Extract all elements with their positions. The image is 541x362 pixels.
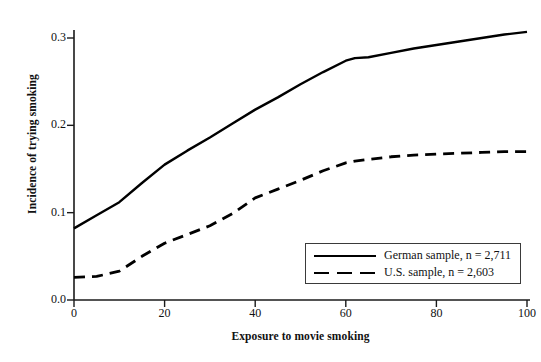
y-tick-marks bbox=[67, 38, 74, 300]
x-axis-title: Exposure to movie smoking bbox=[74, 330, 527, 342]
y-tick-label: 0.1 bbox=[30, 205, 66, 220]
x-tick-label: 0 bbox=[54, 306, 94, 321]
legend-label-german: German sample, n = 2,711 bbox=[384, 248, 511, 263]
legend-item-german: German sample, n = 2,711 bbox=[314, 247, 511, 264]
legend-solid-line-icon bbox=[314, 251, 376, 261]
chart-legend: German sample, n = 2,711 U.S. sample, n … bbox=[305, 243, 521, 284]
x-tick-label: 80 bbox=[416, 306, 456, 321]
legend-dashed-line-icon bbox=[314, 268, 376, 278]
y-tick-label: 0.3 bbox=[30, 30, 66, 45]
series-line-german bbox=[74, 32, 527, 229]
legend-item-us: U.S. sample, n = 2,603 bbox=[314, 264, 494, 281]
legend-label-us: U.S. sample, n = 2,603 bbox=[384, 265, 494, 280]
x-tick-label: 20 bbox=[145, 306, 185, 321]
y-tick-label: 0.2 bbox=[30, 117, 66, 132]
x-tick-label: 40 bbox=[235, 306, 275, 321]
x-tick-marks bbox=[74, 300, 527, 307]
series-paths bbox=[74, 32, 527, 277]
y-tick-label: 0.0 bbox=[30, 292, 66, 307]
x-tick-label: 60 bbox=[326, 306, 366, 321]
x-tick-label: 100 bbox=[507, 306, 541, 321]
